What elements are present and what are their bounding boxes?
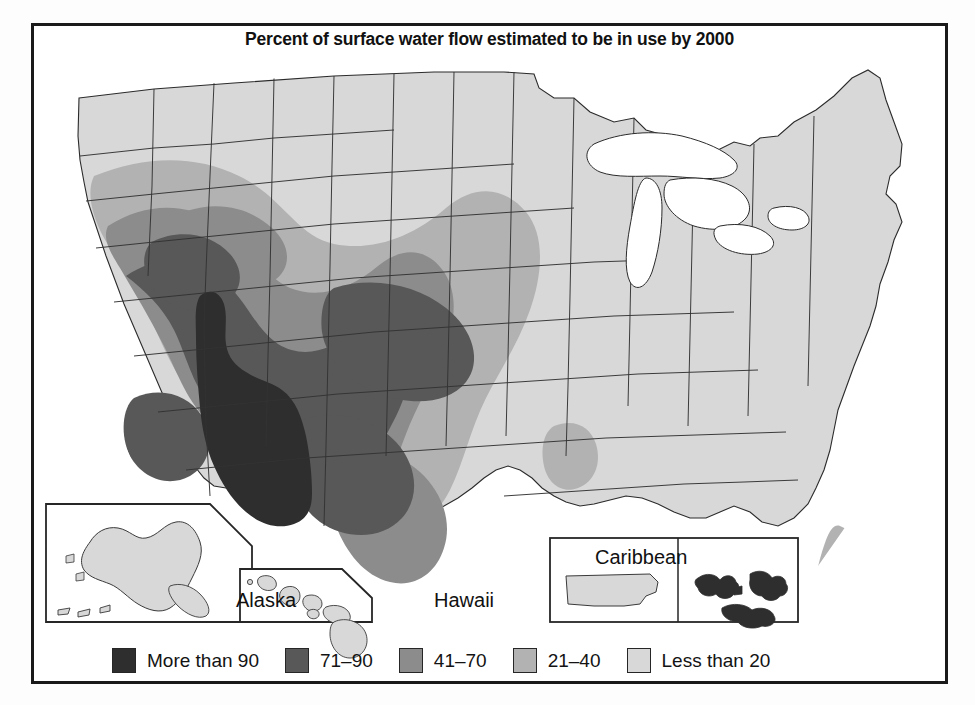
legend-label-21-40: 21–40 (548, 651, 601, 670)
legend-swatch-less-than-20 (627, 648, 651, 673)
legend-label-less-than-20: Less than 20 (662, 651, 771, 670)
inset-label-alaska: Alaska (236, 589, 296, 612)
band-21-40-mississippi (542, 423, 598, 490)
legend-swatch-more-than-90 (112, 648, 136, 673)
legend-label-more-than-90: More than 90 (147, 651, 259, 670)
inset-label-caribbean: Caribbean (595, 546, 687, 569)
legend-swatch-21-40 (513, 648, 537, 673)
legend-label-71-90: 71–90 (320, 651, 373, 670)
choropleth-map (34, 26, 945, 681)
legend-entry: More than 90 (112, 648, 259, 673)
band-21-40-florida (816, 526, 860, 612)
inset-label-hawaii: Hawaii (434, 589, 494, 612)
legend-swatch-71-90 (285, 648, 309, 673)
legend-entry: 21–40 (513, 648, 601, 673)
legend-swatch-41-70 (399, 648, 423, 673)
lake-superior (587, 133, 737, 179)
map-legend: More than 90 71–90 41–70 21–40 Less than… (112, 645, 796, 675)
legend-entry: 71–90 (285, 648, 373, 673)
figure-container: Percent of surface water flow estimated … (0, 0, 975, 705)
legend-entry: 41–70 (399, 648, 487, 673)
legend-label-41-70: 41–70 (434, 651, 487, 670)
legend-entry: Less than 20 (627, 648, 771, 673)
inset-alaska (46, 504, 252, 622)
